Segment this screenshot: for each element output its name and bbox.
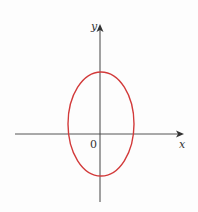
y-axis-label: y [90,20,98,33]
ellipse-diagram: y x 0 [0,0,198,212]
x-axis-label: x [179,138,186,151]
ellipse-curve [68,72,134,176]
origin-label: 0 [90,138,97,151]
diagram-canvas: y x 0 [0,0,198,212]
